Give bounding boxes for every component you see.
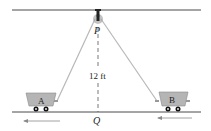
cart-a: A <box>26 93 58 112</box>
rope-to-cart-a <box>57 19 95 101</box>
cart-b-label: B <box>169 95 175 105</box>
rope-to-cart-b <box>101 19 157 101</box>
height-label: 12 ft <box>89 71 106 81</box>
cart-a-label: A <box>38 96 45 106</box>
cart-a-arrow-left-icon <box>23 119 60 123</box>
pulley-icon <box>93 9 103 24</box>
pulley-carts-diagram: P 12 ft Q A B <box>0 0 211 131</box>
ground-label-q: Q <box>93 115 101 126</box>
cart-b-arrow-left-icon <box>157 116 192 120</box>
pulley-label-p: P <box>93 25 100 36</box>
cart-b: B <box>155 92 190 112</box>
